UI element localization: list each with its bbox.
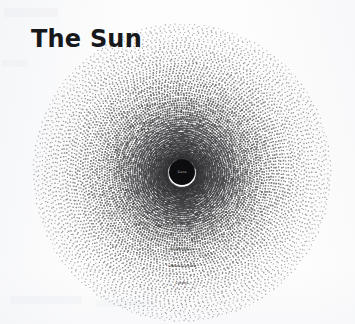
sun-core (169, 159, 195, 185)
infographic-page: The Sun CoreRadiative ZoneConvective Zon… (0, 0, 355, 324)
sun-diagram (0, 0, 355, 324)
core-disc (169, 159, 195, 185)
